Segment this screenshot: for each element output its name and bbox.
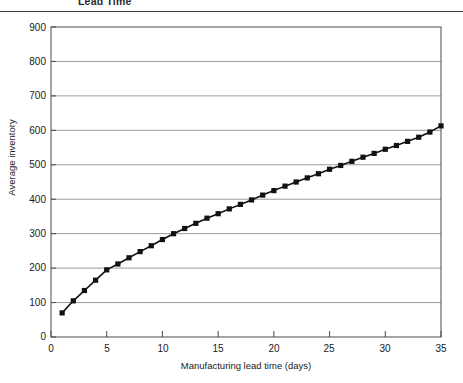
plot-frame	[51, 27, 441, 337]
chart-figure: Lead Time Average inventory Manufacturin…	[0, 0, 463, 383]
x-tick-marks	[51, 331, 441, 337]
y-tick-marks	[51, 27, 56, 337]
data-markers	[60, 123, 444, 315]
data-line-average-inventory	[62, 126, 441, 313]
plot-area	[0, 0, 463, 383]
gridlines	[51, 61, 441, 302]
